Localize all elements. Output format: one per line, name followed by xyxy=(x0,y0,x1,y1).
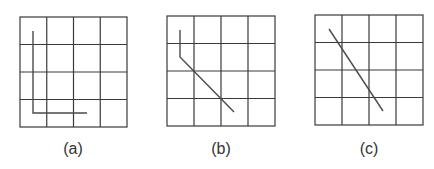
panel-c-grid xyxy=(315,15,423,125)
panel-a-label: (a) xyxy=(53,140,93,158)
panel-b-grid xyxy=(167,16,275,126)
panel-c-label: (c) xyxy=(349,140,389,158)
panel-a-grid xyxy=(20,17,127,127)
panel-b-label: (b) xyxy=(201,140,241,158)
